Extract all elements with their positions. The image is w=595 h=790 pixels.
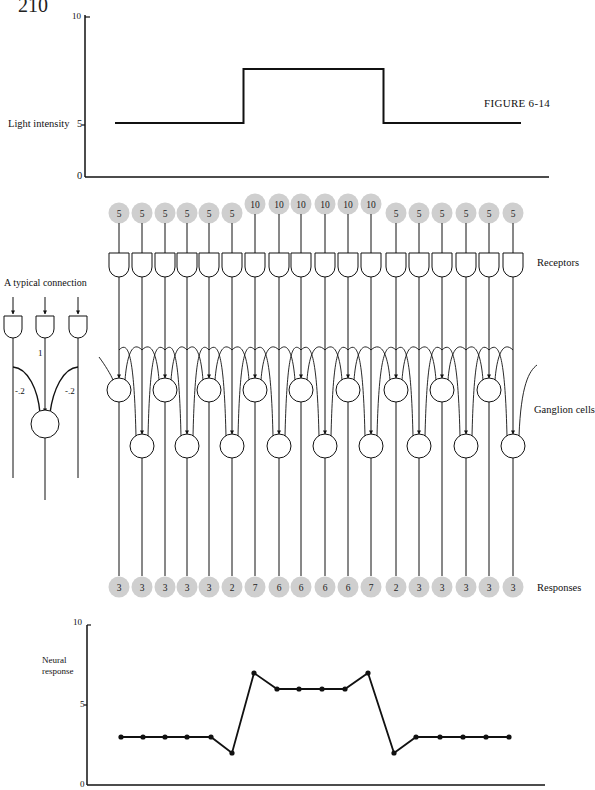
data-point <box>413 734 418 739</box>
data-point <box>140 734 145 739</box>
ganglion-cell-icon <box>130 434 154 458</box>
data-point <box>184 734 189 739</box>
ganglion-cell-icon <box>243 378 267 402</box>
response-value: 3 <box>511 583 516 593</box>
receptor-icon <box>386 253 406 277</box>
response-value: 6 <box>299 583 304 593</box>
receptor-stimulus-value: 5 <box>117 209 122 219</box>
ganglion-cell-icon <box>407 434 431 458</box>
ganglion-cell-icon <box>107 378 131 402</box>
data-point <box>342 686 347 691</box>
data-point <box>251 670 256 675</box>
data-point <box>274 686 279 691</box>
receptor-stimulus-value: 5 <box>394 209 399 219</box>
receptor-icon <box>315 253 335 277</box>
receptor-icon <box>432 253 452 277</box>
response-value: 3 <box>185 583 190 593</box>
inhibitory-arc-left <box>466 347 483 380</box>
response-value: 3 <box>117 583 122 593</box>
response-value: 6 <box>346 583 351 593</box>
inhibitory-arc-right <box>215 347 232 380</box>
inhibitory-arc-right <box>402 347 419 380</box>
data-point <box>319 686 324 691</box>
data-point <box>229 750 234 755</box>
receptor-stimulus-value: 10 <box>296 200 306 210</box>
receptor-icon <box>361 253 381 277</box>
ganglion-cell-icon <box>175 434 199 458</box>
receptor-stimulus-value: 5 <box>464 209 469 219</box>
ganglion-cell-icon <box>313 434 337 458</box>
response-value: 3 <box>207 583 212 593</box>
receptor-icon <box>245 253 265 277</box>
response-value: 3 <box>487 583 492 593</box>
receptor-stimulus-value: 5 <box>207 209 212 219</box>
ganglion-cell-icon <box>359 434 383 458</box>
inhibitory-arc-right <box>125 347 142 380</box>
ganglion-cell-icon <box>501 434 525 458</box>
receptor-stimulus-value: 5 <box>230 209 235 219</box>
receptor-icon <box>479 253 499 277</box>
receptor-icon <box>177 253 197 277</box>
typical-receptor-icon <box>69 316 87 338</box>
inhibitory-arc-left <box>325 347 342 380</box>
receptor-icon <box>222 253 242 277</box>
response-value: 7 <box>253 583 258 593</box>
light-intensity-step-line <box>115 69 521 123</box>
inhibitory-arc-left <box>232 347 249 380</box>
inhibitory-arc-left <box>419 347 436 380</box>
response-value: 3 <box>140 583 145 593</box>
receptor-stimulus-value: 10 <box>250 200 260 210</box>
receptor-stimulus-value: 5 <box>163 209 168 219</box>
data-point <box>437 734 442 739</box>
ganglion-cell-icon <box>153 378 177 402</box>
typical-inhibitory-left <box>13 367 40 413</box>
top-chart <box>82 15 549 177</box>
receptor-icon <box>409 253 429 277</box>
receptor-stimulus-value: 10 <box>274 200 284 210</box>
data-point <box>118 734 123 739</box>
receptor-icon <box>132 253 152 277</box>
receptor-icon <box>338 253 358 277</box>
ganglion-cell-icon <box>384 378 408 402</box>
typical-receptor-icon <box>36 316 54 338</box>
ganglion-cell-icon <box>336 378 360 402</box>
bottom-chart <box>84 625 545 785</box>
response-value: 3 <box>440 583 445 593</box>
receptor-icon <box>291 253 311 277</box>
receptor-stimulus-value: 5 <box>511 209 516 219</box>
receptor-icon <box>109 253 129 277</box>
response-value: 6 <box>277 583 282 593</box>
data-point <box>460 734 465 739</box>
typical-connection <box>4 297 87 500</box>
receptor-stimulus-value: 10 <box>343 200 353 210</box>
receptor-stimulus-value: 5 <box>417 209 422 219</box>
data-point <box>208 734 213 739</box>
data-point <box>483 734 488 739</box>
ganglion-cell-icon <box>289 378 313 402</box>
response-value: 3 <box>417 583 422 593</box>
receptor-stimulus-value: 10 <box>320 200 330 210</box>
ganglion-cell-icon <box>267 434 291 458</box>
response-value: 3 <box>464 583 469 593</box>
inhibitory-arc-left <box>142 347 159 380</box>
data-point <box>506 734 511 739</box>
receptor-icon <box>503 253 523 277</box>
receptor-stimulus-value: 5 <box>140 209 145 219</box>
ganglion-cell-icon <box>197 378 221 402</box>
receptor-icon <box>456 253 476 277</box>
inhibitory-arc-right <box>354 347 371 380</box>
typical-receptor-icon <box>4 316 22 338</box>
ganglion-cell-icon <box>430 378 454 402</box>
receptor-stimulus-value: 10 <box>366 200 376 210</box>
data-point <box>391 750 396 755</box>
receptor-icon <box>269 253 289 277</box>
data-point <box>365 670 370 675</box>
response-value: 2 <box>230 583 235 593</box>
neural-response-line <box>121 673 509 753</box>
inhibitory-arc-left <box>99 357 113 380</box>
inhibitory-arc-right <box>519 365 537 436</box>
receptor-stimulus-value: 5 <box>440 209 445 219</box>
receptor-icon <box>199 253 219 277</box>
ganglion-cell-icon <box>220 434 244 458</box>
